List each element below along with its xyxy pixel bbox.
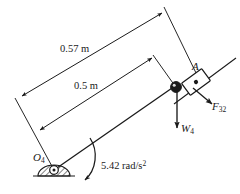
free-body-diagram: 0.57 m 0.5 m A F32 W4 O4 5.42 rad/s2 — [0, 0, 240, 194]
slider-block — [181, 69, 210, 96]
alpha-exponent: 2 — [142, 159, 146, 168]
weight-symbol: W — [181, 122, 190, 134]
weight-subscript: 4 — [190, 127, 194, 136]
force-symbol: F — [212, 100, 219, 112]
dimension-label-0-57: 0.57 m — [60, 44, 89, 55]
weight-label-w4: W4 — [181, 123, 194, 135]
dimension-line-0-5 — [40, 58, 152, 130]
force-subscript: 32 — [219, 105, 227, 114]
extension-line-inner — [153, 55, 175, 86]
force-vector-f32 — [193, 88, 212, 104]
alpha-value: 5.42 rad/s — [101, 160, 142, 171]
ground-pivot-o4 — [50, 166, 59, 175]
link-4 — [54, 86, 175, 170]
pivot-symbol: O — [33, 151, 41, 163]
dimension-label-0-5: 0.5 m — [74, 81, 98, 92]
pivot-subscript: 4 — [41, 156, 45, 165]
angular-acceleration-label: 5.42 rad/s2 — [101, 160, 146, 172]
force-label-f32: F32 — [212, 101, 226, 113]
pin-joint-a — [171, 82, 182, 93]
ground-pivot-label-o4: O4 — [33, 152, 45, 164]
point-label-a: A — [192, 61, 199, 72]
